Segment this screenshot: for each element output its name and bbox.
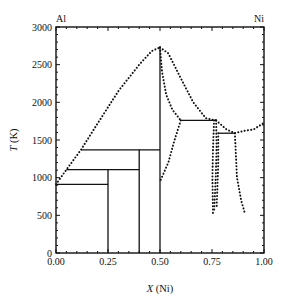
y-tick-label: 1500 [32, 135, 52, 146]
dotted-curve-liquidus-left [56, 47, 160, 184]
x-tick-label: 0.25 [99, 256, 117, 267]
y-tick-label: 500 [37, 210, 52, 221]
labels-layer: 0.000.250.500.751.0005001000150020002500… [32, 22, 273, 268]
dotted-curve-ni3al-left [212, 120, 214, 215]
y-tick-label: 1000 [32, 172, 52, 183]
x-axis-title: X (Ni) [146, 283, 174, 295]
x-tick-label: 0.50 [151, 256, 169, 267]
corner-label-ni: Ni [254, 13, 264, 24]
y-tick-label: 3000 [32, 22, 52, 33]
dotted-curve-liquidus-ni [216, 120, 264, 133]
dotted-curve-b2-boundary-lower [160, 120, 181, 181]
y-axis-title-unit: (K) [8, 128, 20, 146]
dotted-curve-liquidus-right [160, 47, 216, 120]
phase-diagram-chart: 0.000.250.500.751.0005001000150020002500… [0, 0, 286, 296]
y-tick-label: 2000 [32, 97, 52, 108]
series-layer [56, 47, 264, 253]
y-axis-title: T (K) [8, 128, 20, 152]
dotted-curve-ni-solvus [235, 133, 245, 214]
corner-label-al: Al [56, 13, 66, 24]
x-tick-label: 1.00 [255, 256, 273, 267]
x-axis-title-unit: (Ni) [153, 283, 174, 295]
y-tick-label: 0 [47, 248, 52, 259]
y-tick-label: 2500 [32, 59, 52, 70]
x-tick-label: 0.75 [203, 256, 221, 267]
